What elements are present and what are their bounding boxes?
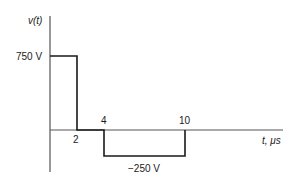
waveform-trace — [50, 56, 185, 156]
x-axis-label: t, μs — [262, 135, 281, 146]
tick-label-2: 2 — [73, 134, 79, 145]
y-axis-label: v(t) — [28, 15, 42, 26]
tick-label-10: 10 — [179, 115, 191, 126]
tick-label-4: 4 — [101, 115, 107, 126]
level-high-label: 750 V — [16, 51, 42, 62]
level-low-label: −250 V — [128, 163, 160, 174]
pulse-waveform-diagram: v(t) 750 V 2 4 10 t, μs −250 V — [0, 0, 295, 185]
